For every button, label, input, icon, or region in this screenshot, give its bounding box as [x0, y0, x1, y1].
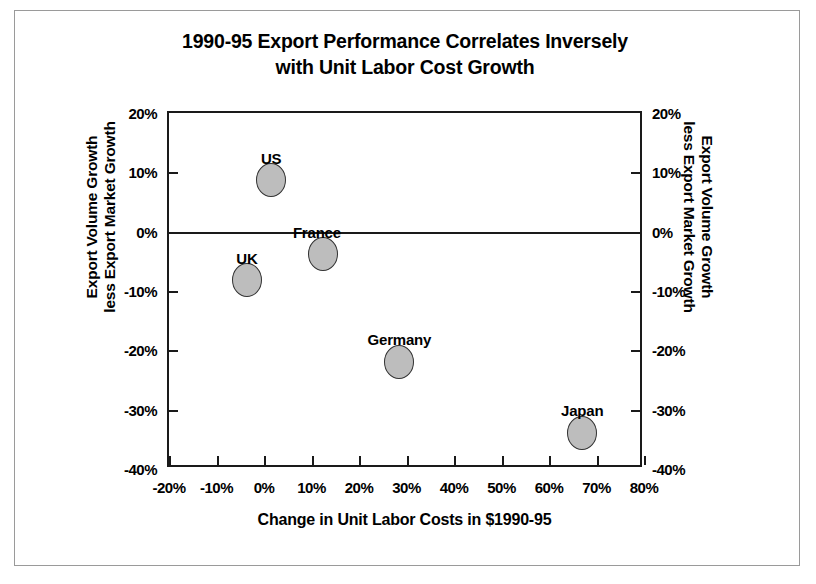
data-point-germany[interactable] — [384, 345, 414, 379]
data-point-japan[interactable] — [567, 416, 597, 450]
data-label-france: France — [293, 224, 341, 241]
x-tick-label: -10% — [200, 479, 233, 496]
x-axis-title: Change in Unit Labor Costs in $1990-95 — [167, 511, 642, 529]
y-tick-label-left: 0% — [136, 223, 157, 240]
y-tick-left — [169, 350, 178, 352]
x-tick — [169, 456, 171, 465]
chart-title-line-1: 1990-95 Export Performance Correlates In… — [105, 28, 705, 54]
y-tick-left — [169, 172, 178, 174]
data-point-us[interactable] — [256, 163, 286, 197]
y-tick-right — [631, 350, 640, 352]
y-axis-title-right: Export Volume Growth less Export Market … — [680, 67, 716, 367]
chart-figure: 1990-95 Export Performance Correlates In… — [14, 10, 800, 566]
x-tick — [549, 456, 551, 465]
y-axis-title-left-line-2: less Export Market Growth — [101, 67, 119, 367]
y-axis-title-right-line-1: Export Volume Growth — [698, 67, 716, 367]
x-tick-label: 20% — [345, 479, 374, 496]
x-tick — [407, 456, 409, 465]
x-tick — [502, 456, 504, 465]
x-tick-label: 30% — [392, 479, 421, 496]
y-tick-label-right: 20% — [652, 105, 681, 122]
x-tick — [264, 456, 266, 465]
x-tick-label: 0% — [254, 479, 275, 496]
data-point-uk[interactable] — [232, 263, 262, 297]
x-tick-label: 80% — [630, 479, 659, 496]
y-tick-label-left: 20% — [128, 105, 157, 122]
y-tick-left — [169, 410, 178, 412]
x-tick-label: 70% — [582, 479, 611, 496]
data-point-france[interactable] — [308, 237, 338, 271]
y-tick-right — [631, 410, 640, 412]
x-tick-label: 50% — [487, 479, 516, 496]
chart-title-line-2: with Unit Labor Cost Growth — [105, 54, 705, 80]
x-tick — [312, 456, 314, 465]
y-tick-right — [631, 232, 640, 234]
y-tick-label-left: -40% — [124, 461, 157, 478]
data-label-japan: Japan — [561, 402, 603, 419]
y-axis-title-right-line-2: less Export Market Growth — [680, 67, 698, 367]
y-tick-label-right: -20% — [652, 342, 685, 359]
y-tick-label-right: -40% — [652, 461, 685, 478]
y-tick-right — [631, 172, 640, 174]
x-tick — [597, 456, 599, 465]
x-tick-label: 10% — [297, 479, 326, 496]
data-label-germany: Germany — [368, 331, 432, 348]
x-tick — [217, 456, 219, 465]
plot-area: -20%-10%0%10%20%30%40%50%60%70%80% 20%20… — [167, 111, 642, 467]
data-label-us: US — [261, 150, 281, 167]
y-tick-label-right: 10% — [652, 164, 681, 181]
x-tick-label: -20% — [152, 479, 185, 496]
y-tick-label-right: -10% — [652, 283, 685, 300]
x-tick — [359, 456, 361, 465]
y-tick-right — [631, 291, 640, 293]
y-tick-label-left: -10% — [124, 283, 157, 300]
y-axis-title-left: Export Volume Growth less Export Market … — [83, 67, 119, 367]
chart-title: 1990-95 Export Performance Correlates In… — [105, 28, 705, 80]
y-tick-left — [169, 291, 178, 293]
y-tick-label-right: -30% — [652, 401, 685, 418]
zero-reference-line — [169, 232, 640, 234]
y-axis-title-left-line-1: Export Volume Growth — [83, 67, 101, 367]
y-tick-label-right: 0% — [652, 223, 673, 240]
y-tick-label-left: -30% — [124, 401, 157, 418]
x-tick — [644, 456, 646, 465]
x-tick-label: 60% — [535, 479, 564, 496]
x-tick-label: 40% — [440, 479, 469, 496]
x-tick — [454, 456, 456, 465]
data-label-uk: UK — [236, 250, 257, 267]
y-tick-label-left: 10% — [128, 164, 157, 181]
y-tick-label-left: -20% — [124, 342, 157, 359]
